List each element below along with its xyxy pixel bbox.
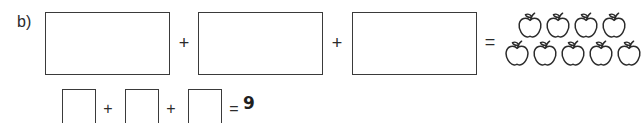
answer-box-small-2[interactable]: [125, 89, 159, 123]
apple-row-bottom: [503, 37, 643, 68]
apple-icon: [531, 37, 559, 68]
apple-icon: [516, 9, 544, 40]
apple-icon: [615, 37, 643, 68]
answer-box-small-1[interactable]: [62, 89, 96, 123]
apple-icon: [587, 37, 615, 68]
apple-icon: [572, 9, 600, 40]
apple-group: [503, 9, 643, 68]
answer-box-large-1[interactable]: [45, 12, 170, 75]
worksheet-problem-b: b) + + =: [0, 0, 643, 123]
equals-operator-2: =: [226, 101, 242, 117]
equals-operator-1: =: [481, 33, 499, 51]
answer-box-large-2[interactable]: [198, 12, 323, 75]
answer-box-large-3[interactable]: [352, 12, 477, 75]
part-label: b): [17, 14, 31, 30]
answer-box-small-3[interactable]: [188, 89, 222, 123]
plus-operator-3: +: [100, 101, 116, 117]
apple-icon: [559, 37, 587, 68]
apple-row-top: [516, 9, 643, 40]
apple-icon: [600, 9, 628, 40]
plus-operator-4: +: [163, 101, 179, 117]
plus-operator-1: +: [175, 34, 193, 52]
apple-icon: [544, 9, 572, 40]
apple-icon: [503, 37, 531, 68]
answer-total: 9: [243, 95, 255, 112]
plus-operator-2: +: [328, 34, 346, 52]
